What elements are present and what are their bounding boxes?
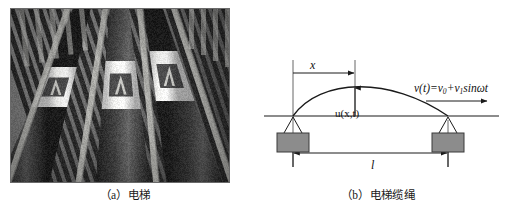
velocity-eq-part2: +v bbox=[447, 82, 460, 94]
label-x: x bbox=[310, 59, 315, 71]
panel-elevator-photo: （a）电梯 bbox=[0, 0, 250, 211]
label-velocity-equation: v(t)=v0+v1sinωt bbox=[414, 83, 488, 95]
caption-panel-a: （a）电梯 bbox=[0, 186, 250, 202]
figure-container: （a）电梯 bbox=[0, 0, 506, 211]
velocity-eq-part3: sinωt bbox=[463, 82, 488, 94]
label-l: l bbox=[371, 159, 374, 171]
panel-cable-schematic: x l u(x,t) v(t)=v0+v1sinωt （b）电梯缆绳 bbox=[250, 0, 506, 211]
label-u-x-t: u(x,t) bbox=[335, 108, 359, 119]
caption-panel-b: （b）电梯缆绳 bbox=[250, 186, 506, 202]
elevator-photo-canvas bbox=[11, 9, 229, 182]
elevator-car-right bbox=[432, 133, 464, 152]
elevator-car-left bbox=[277, 133, 309, 152]
elevator-photograph bbox=[10, 8, 230, 183]
velocity-eq-part1: v(t)=v bbox=[414, 82, 443, 94]
